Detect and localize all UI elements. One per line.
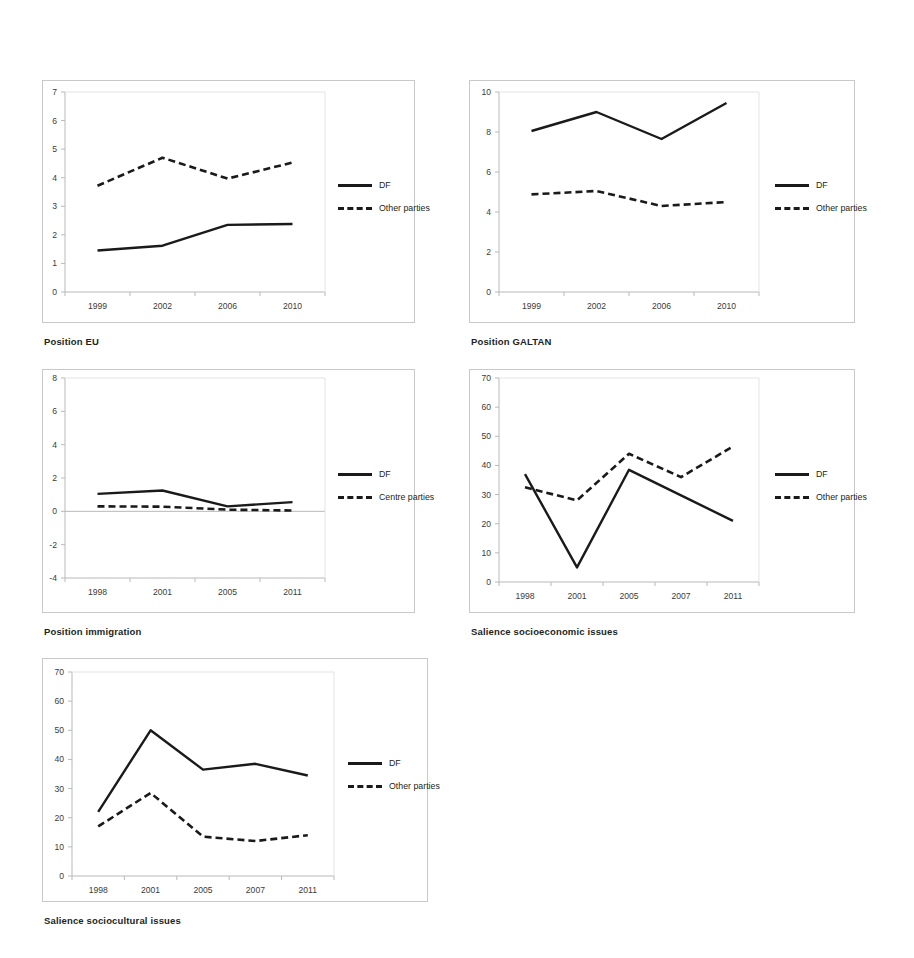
- series-line-df: [98, 224, 293, 251]
- series-line-df: [98, 491, 293, 507]
- x-tick-label: 2005: [193, 885, 212, 895]
- y-tick-label: 20: [54, 813, 64, 823]
- y-tick-label: 6: [52, 406, 57, 416]
- legend-item-other-parties[interactable]: Other parties: [775, 204, 867, 213]
- legend-swatch-dashed-icon: [348, 785, 382, 788]
- series-line-df: [532, 103, 727, 139]
- series-line-other-parties: [525, 446, 733, 500]
- x-tick-label: 2011: [299, 885, 318, 895]
- chart-panel-position-galtan: 02468101999200220062010 DF Other parties: [469, 80, 855, 323]
- plot-area-salience-socioeconomic: 01020304050607019982001200520072011: [469, 369, 855, 613]
- series-line-other-parties: [98, 158, 293, 186]
- y-tick-label: 50: [54, 725, 64, 735]
- y-tick-label: 8: [52, 373, 57, 383]
- series-line-centre-parties: [98, 506, 293, 510]
- caption-position-eu: Position EU: [44, 336, 99, 347]
- legend-swatch-solid-icon: [775, 184, 809, 187]
- legend-label: Other parties: [389, 782, 440, 791]
- y-tick-label: 8: [486, 127, 491, 137]
- y-tick-label: -2: [49, 540, 57, 550]
- y-tick-label: 6: [52, 116, 57, 126]
- legend-label: DF: [389, 759, 401, 768]
- y-tick-label: 7: [52, 87, 57, 97]
- y-tick-label: 30: [54, 784, 64, 794]
- series-line-other-parties: [98, 793, 308, 841]
- legend-item-other-parties[interactable]: Other parties: [338, 204, 430, 213]
- legend-item-df[interactable]: DF: [338, 470, 391, 479]
- chart-panel-position-eu: 012345671999200220062010 DF Other partie…: [42, 80, 415, 323]
- legend-item-df[interactable]: DF: [775, 470, 828, 479]
- y-tick-label: 40: [481, 460, 491, 470]
- chart-panel-salience-socioeconomic: 01020304050607019982001200520072011 DF O…: [469, 369, 855, 613]
- legend-item-df[interactable]: DF: [338, 181, 391, 190]
- legend-item-other-parties[interactable]: Other parties: [775, 493, 867, 502]
- caption-position-immigration: Position immigration: [44, 626, 141, 637]
- y-tick-label: 0: [52, 506, 57, 516]
- x-tick-label: 1999: [88, 301, 107, 311]
- y-tick-label: 10: [481, 87, 491, 97]
- y-tick-label: 70: [481, 373, 491, 383]
- x-tick-label: 2006: [652, 301, 671, 311]
- legend-item-centre-parties[interactable]: Centre parties: [338, 493, 434, 502]
- y-tick-label: 3: [52, 201, 57, 211]
- legend-label: Other parties: [816, 493, 867, 502]
- y-tick-label: -4: [49, 573, 57, 583]
- x-tick-label: 2007: [671, 591, 690, 601]
- y-tick-label: 0: [52, 287, 57, 297]
- y-tick-label: 60: [481, 402, 491, 412]
- x-tick-label: 1998: [88, 587, 107, 597]
- plot-area-position-eu: 012345671999200220062010: [42, 80, 415, 323]
- x-tick-label: 2001: [141, 885, 160, 895]
- legend-item-other-parties[interactable]: Other parties: [348, 782, 440, 791]
- x-tick-label: 1999: [522, 301, 541, 311]
- x-tick-label: 2011: [724, 591, 743, 601]
- y-tick-label: 30: [481, 490, 491, 500]
- legend-item-df[interactable]: DF: [775, 181, 828, 190]
- y-tick-label: 0: [59, 871, 64, 881]
- y-tick-label: 6: [486, 167, 491, 177]
- legend-swatch-solid-icon: [775, 473, 809, 476]
- x-tick-label: 2010: [283, 301, 302, 311]
- x-tick-label: 2001: [567, 591, 586, 601]
- plot-area-salience-sociocultural: 01020304050607019982001200520072011: [42, 658, 428, 902]
- x-tick-label: 2002: [587, 301, 606, 311]
- caption-salience-socioeconomic: Salience socioeconomic issues: [471, 626, 618, 637]
- legend-swatch-solid-icon: [338, 473, 372, 476]
- figure-canvas: 012345671999200220062010 DF Other partie…: [0, 0, 914, 958]
- legend-label: Centre parties: [379, 493, 434, 502]
- y-tick-label: 40: [54, 754, 64, 764]
- y-tick-label: 2: [52, 473, 57, 483]
- y-tick-label: 1: [52, 258, 57, 268]
- y-tick-label: 0: [486, 287, 491, 297]
- y-tick-label: 60: [54, 696, 64, 706]
- series-line-other-parties: [532, 191, 727, 206]
- x-tick-label: 1998: [89, 885, 108, 895]
- y-tick-label: 2: [52, 230, 57, 240]
- x-tick-label: 2002: [153, 301, 172, 311]
- y-tick-label: 20: [481, 519, 491, 529]
- y-tick-label: 4: [52, 440, 57, 450]
- y-tick-label: 10: [481, 548, 491, 558]
- legend-swatch-dashed-icon: [338, 496, 372, 499]
- legend-label: DF: [379, 470, 391, 479]
- x-tick-label: 2010: [717, 301, 736, 311]
- legend-label: DF: [379, 181, 391, 190]
- legend-label: Other parties: [379, 204, 430, 213]
- y-tick-label: 2: [486, 247, 491, 257]
- x-tick-label: 2001: [153, 587, 172, 597]
- legend-swatch-solid-icon: [348, 762, 382, 765]
- x-tick-label: 1998: [515, 591, 534, 601]
- y-tick-label: 4: [52, 173, 57, 183]
- x-tick-label: 2005: [619, 591, 638, 601]
- y-tick-label: 70: [54, 667, 64, 677]
- legend-swatch-dashed-icon: [338, 207, 372, 210]
- x-tick-label: 2005: [218, 587, 237, 597]
- series-line-df: [98, 730, 308, 812]
- chart-panel-salience-sociocultural: 01020304050607019982001200520072011 DF O…: [42, 658, 428, 902]
- y-tick-label: 5: [52, 144, 57, 154]
- legend-label: DF: [816, 181, 828, 190]
- legend-item-df[interactable]: DF: [348, 759, 401, 768]
- caption-position-galtan: Position GALTAN: [471, 336, 552, 347]
- legend-swatch-dashed-icon: [775, 207, 809, 210]
- x-tick-label: 2011: [283, 587, 302, 597]
